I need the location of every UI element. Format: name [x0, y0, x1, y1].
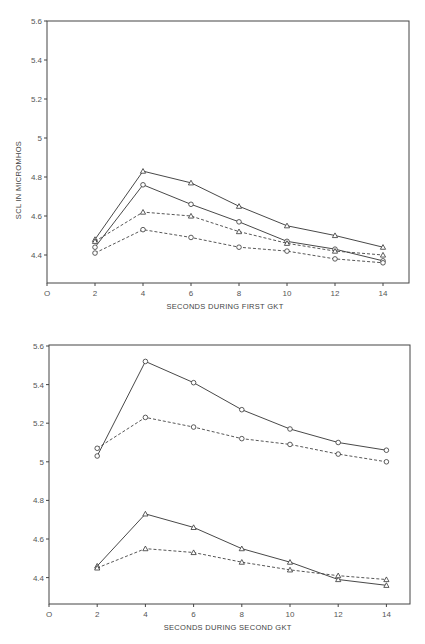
- chart-first-gkt: 4.44.64.855.25.45.6O2468101214SECONDS DU…: [14, 17, 409, 311]
- x-tick-label: 4: [141, 289, 146, 298]
- circle-marker-icon: [333, 257, 338, 262]
- triangle-marker-icon: [236, 229, 241, 234]
- triangle-marker-icon: [140, 169, 145, 174]
- triangle-marker-icon: [236, 204, 241, 209]
- circle-marker-icon: [285, 249, 290, 254]
- series-solid-triangle: [92, 169, 385, 250]
- y-tick-label: 5.6: [31, 17, 43, 26]
- y-tick-label: 5: [38, 134, 43, 143]
- x-tick-label: 6: [189, 289, 194, 298]
- y-tick-label: 4.4: [33, 574, 45, 583]
- triangle-marker-icon: [140, 210, 145, 215]
- triangle-marker-icon: [384, 577, 389, 582]
- x-tick-label: 14: [379, 289, 388, 298]
- y-tick-label: 4.6: [31, 212, 43, 221]
- triangle-marker-icon: [336, 573, 341, 578]
- x-tick-label: 12: [334, 610, 343, 619]
- circle-marker-icon: [240, 407, 245, 412]
- circle-marker-icon: [141, 183, 146, 188]
- circle-marker-icon: [95, 454, 100, 459]
- y-tick-label: 4.8: [31, 173, 43, 182]
- circle-marker-icon: [384, 460, 389, 465]
- series-solid-triangle: [95, 511, 389, 587]
- y-tick-label: 5.6: [33, 342, 45, 351]
- figure: 4.44.64.855.25.45.6O2468101214SECONDS DU…: [0, 0, 425, 644]
- y-tick-label: 4.8: [33, 496, 45, 505]
- circle-marker-icon: [143, 359, 148, 364]
- y-tick-label: 5.2: [31, 95, 43, 104]
- x-axis-label: SECONDS DURING FIRST GKT: [166, 302, 283, 311]
- x-tick-label: 14: [382, 610, 391, 619]
- triangle-marker-icon: [191, 550, 196, 555]
- circle-marker-icon: [189, 235, 194, 240]
- plot-frame: [47, 21, 409, 283]
- series-solid-circle: [93, 183, 386, 264]
- chart-second-gkt: 4.44.64.855.25.45.6O2468101214SECONDS DU…: [33, 342, 410, 632]
- circle-marker-icon: [381, 261, 386, 266]
- circle-marker-icon: [237, 245, 242, 250]
- x-tick-label: 6: [191, 610, 196, 619]
- x-tick-label: O: [44, 289, 50, 298]
- circle-marker-icon: [93, 251, 98, 256]
- circle-marker-icon: [384, 448, 389, 453]
- triangle-marker-icon: [380, 252, 385, 257]
- triangle-marker-icon: [143, 511, 148, 516]
- x-tick-label: 4: [143, 610, 148, 619]
- circle-marker-icon: [237, 220, 242, 225]
- y-tick-label: 5: [40, 458, 45, 467]
- y-tick-label: 5.4: [31, 56, 43, 65]
- y-axis-label: SCL IN MICROMHOS: [14, 141, 23, 219]
- circle-marker-icon: [240, 436, 245, 441]
- series-dashed-circle: [95, 415, 389, 464]
- x-tick-label: O: [46, 610, 52, 619]
- circle-marker-icon: [288, 427, 293, 432]
- circle-marker-icon: [336, 452, 341, 457]
- x-tick-label: 10: [286, 610, 295, 619]
- series-solid-circle: [95, 359, 389, 458]
- y-tick-label: 5.2: [33, 419, 45, 428]
- x-tick-label: 2: [93, 289, 98, 298]
- circle-marker-icon: [191, 380, 196, 385]
- circle-marker-icon: [336, 440, 341, 445]
- y-tick-label: 4.4: [31, 251, 43, 260]
- circle-marker-icon: [143, 415, 148, 420]
- circle-marker-icon: [93, 245, 98, 250]
- circle-marker-icon: [288, 442, 293, 447]
- series-dashed-triangle: [95, 546, 389, 582]
- x-tick-label: 8: [240, 610, 245, 619]
- triangle-marker-icon: [143, 546, 148, 551]
- x-axis-label: SECONDS DURING SECOND GKT: [164, 623, 292, 632]
- x-tick-label: 12: [331, 289, 340, 298]
- y-tick-label: 5.4: [33, 381, 45, 390]
- triangle-marker-icon: [239, 546, 244, 551]
- circle-marker-icon: [189, 202, 194, 207]
- circle-marker-icon: [141, 227, 146, 232]
- x-tick-label: 10: [283, 289, 292, 298]
- circle-marker-icon: [95, 446, 100, 451]
- series-line: [95, 171, 383, 247]
- y-tick-label: 4.6: [33, 535, 45, 544]
- x-tick-label: 8: [237, 289, 242, 298]
- x-tick-label: 2: [95, 610, 100, 619]
- circle-marker-icon: [191, 425, 196, 430]
